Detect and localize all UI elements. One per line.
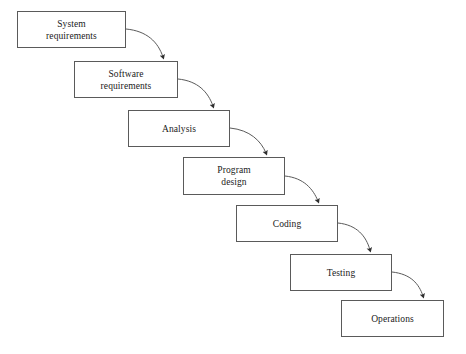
phase-box-operations[interactable]: Operations — [341, 300, 444, 337]
phase-box-testing[interactable]: Testing — [290, 254, 392, 291]
phase-box-software-requirements[interactable]: Software requirements — [74, 61, 178, 98]
phase-box-system-requirements[interactable]: System requirements — [17, 11, 126, 48]
phase-label-testing: Testing — [323, 267, 360, 279]
arrow-software-to-analysis — [178, 79, 213, 106]
phase-label-software-requirements: Software requirements — [97, 68, 156, 92]
phase-label-operations: Operations — [367, 313, 418, 325]
arrow-testing-to-operations — [392, 272, 423, 296]
arrow-program-design-to-coding — [285, 176, 318, 201]
arrow-analysis-to-program-design — [230, 128, 266, 153]
phase-box-coding[interactable]: Coding — [236, 205, 338, 242]
arrow-coding-to-testing — [338, 223, 370, 250]
waterfall-diagram: System requirements Software requirement… — [0, 0, 466, 354]
phase-label-coding: Coding — [269, 218, 306, 230]
phase-label-system-requirements: System requirements — [42, 18, 101, 42]
phase-box-analysis[interactable]: Analysis — [128, 110, 230, 147]
phase-label-analysis: Analysis — [158, 123, 200, 135]
phase-box-program-design[interactable]: Program design — [183, 157, 285, 195]
arrow-system-to-software — [126, 29, 163, 57]
phase-label-program-design: Program design — [213, 164, 254, 188]
